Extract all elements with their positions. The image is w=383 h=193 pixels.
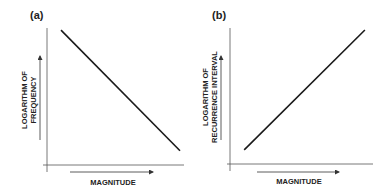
panel-b: (b) MAGNITUDE LOGARITHM OF RECURRENCE IN… (201, 9, 373, 186)
panel-b-x-label: MAGNITUDE (276, 177, 321, 186)
panel-b-y-label-line2: RECURRENCE INTERVAL (210, 51, 219, 143)
figure: (a) MAGNITUDE LOGARITHM OF FREQUENCY (b)… (0, 0, 383, 193)
panel-b-y-label-line1: LOGARITHM OF (201, 68, 210, 126)
panel-a-y-label-line1: LOGARITHM OF (20, 71, 29, 129)
panel-b-data-line (244, 30, 365, 150)
panel-a: (a) MAGNITUDE LOGARITHM OF FREQUENCY (20, 9, 184, 187)
panel-a-y-label-line2: FREQUENCY (29, 76, 38, 123)
panel-a-label: (a) (30, 9, 44, 21)
panel-b-label: (b) (212, 9, 226, 21)
panel-a-x-label: MAGNITUDE (90, 178, 135, 187)
panel-a-data-line (61, 30, 180, 151)
